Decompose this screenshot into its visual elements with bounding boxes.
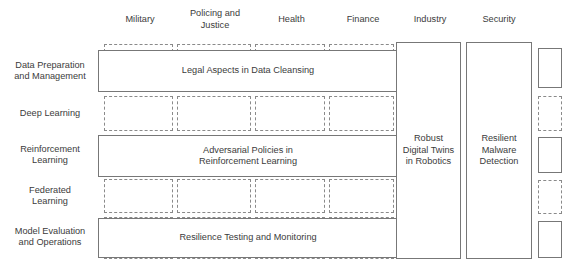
row-label-federated-learning: Federated Learning <box>2 177 98 215</box>
grid-cell-finance-deep-learning <box>329 96 394 131</box>
column-header-health: Health <box>254 14 329 26</box>
row-label-data-preparation-and-management: Data Preparation and Management <box>2 49 98 93</box>
grid-cell-overflow-reinforcement-learning <box>538 137 562 173</box>
grid-cell-military-deep-learning <box>104 96 173 131</box>
grid-cell-overflow-federated-learning <box>538 180 562 214</box>
grid-cell-overflow-deep-learning <box>538 96 562 131</box>
grid-cell-military-federated-learning <box>104 179 173 213</box>
row-label-model-evaluation-and-operations: Model Evaluation and Operations <box>2 215 98 259</box>
grid-cell-finance-federated-learning <box>329 179 394 213</box>
theme-box-resilience-testing-and-monitoring[interactable]: Resilience Testing and Monitoring <box>98 218 398 258</box>
theme-box-robust-digital-twins-in-robotics[interactable]: Robust Digital Twins in Robotics <box>396 42 461 259</box>
grid-cell-health-federated-learning <box>255 179 325 213</box>
column-header-policing-and-justice: Policing and Justice <box>176 8 254 31</box>
row-label-deep-learning: Deep Learning <box>2 95 98 133</box>
column-header-military: Military <box>104 14 176 26</box>
theme-box-legal-aspects-in-data-cleansing[interactable]: Legal Aspects in Data Cleansing <box>98 50 398 92</box>
grid-cell-overflow-model-evaluation-and-operations <box>538 221 562 258</box>
column-header-finance: Finance <box>329 14 397 26</box>
grid-cell-overflow-data-preparation-and-management <box>538 48 562 88</box>
grid-cell-policing-and-justice-deep-learning <box>177 96 251 131</box>
row-label-reinforcement-learning: Reinforcement Learning <box>2 133 98 177</box>
theme-box-resilient-malware-detection[interactable]: Resilient Malware Detection <box>466 42 532 259</box>
column-header-security: Security <box>466 14 532 26</box>
column-header-industry: Industry <box>397 14 463 26</box>
theme-box-adversarial-policies-in-reinforcement-learning[interactable]: Adversarial Policies in Reinforcement Le… <box>98 135 398 177</box>
grid-cell-health-deep-learning <box>255 96 325 131</box>
grid-cell-policing-and-justice-federated-learning <box>177 179 251 213</box>
